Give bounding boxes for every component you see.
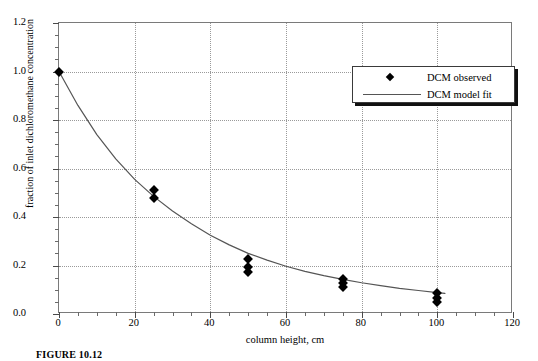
- y-tick-major: [53, 217, 59, 218]
- legend-entry-observed: DCM observed: [353, 69, 514, 86]
- gridline-vertical: [135, 23, 136, 312]
- y-tick-minor: [55, 96, 59, 97]
- x-tick-label: 60: [265, 318, 305, 328]
- y-tick-label: 0.8: [0, 114, 26, 124]
- x-tick-label: 80: [341, 318, 381, 328]
- x-tick-label: 120: [492, 318, 532, 328]
- y-tick-label: 0.6: [0, 163, 26, 173]
- figure-container: DCM observed DCM model fit 0.00.20.40.60…: [0, 0, 538, 361]
- y-tick-minor: [55, 205, 59, 206]
- y-tick-minor: [55, 84, 59, 85]
- x-tick-minor: [191, 312, 192, 316]
- y-tick-major: [53, 266, 59, 267]
- y-tick-minor: [55, 47, 59, 48]
- y-tick-minor: [55, 278, 59, 279]
- gridline-horizontal: [59, 169, 511, 170]
- y-tick-minor: [55, 35, 59, 36]
- x-tick-minor: [116, 312, 117, 316]
- data-point-marker: [54, 67, 64, 77]
- y-tick-major: [53, 120, 59, 121]
- y-tick-minor: [55, 144, 59, 145]
- y-axis-title: fraction of inlet dichloromethane concen…: [24, 0, 35, 239]
- y-tick-minor: [55, 132, 59, 133]
- x-tick-minor: [324, 312, 325, 316]
- x-tick-minor: [381, 312, 382, 316]
- plot-area: DCM observed DCM model fit: [58, 22, 512, 313]
- gridline-vertical: [286, 23, 287, 312]
- y-tick-minor: [55, 108, 59, 109]
- diamond-marker-icon: [361, 69, 423, 86]
- y-tick-label: 0.4: [0, 211, 26, 221]
- x-axis-title: column height, cm: [58, 334, 512, 345]
- x-tick-minor: [154, 312, 155, 316]
- x-tick-minor: [343, 312, 344, 316]
- x-tick-minor: [78, 312, 79, 316]
- gridline-horizontal: [59, 217, 511, 218]
- y-tick-major: [53, 169, 59, 170]
- y-tick-minor: [55, 290, 59, 291]
- y-tick-minor: [55, 253, 59, 254]
- figure-caption: FIGURE 10.12: [36, 349, 102, 360]
- y-tick-label: 1.2: [0, 17, 26, 27]
- x-tick-minor: [248, 312, 249, 316]
- y-tick-minor: [55, 229, 59, 230]
- legend-entry-model-fit: DCM model fit: [353, 86, 514, 103]
- x-tick-minor: [494, 312, 495, 316]
- x-tick-label: 20: [114, 318, 154, 328]
- y-tick-minor: [55, 181, 59, 182]
- x-tick-minor: [229, 312, 230, 316]
- y-tick-minor: [55, 193, 59, 194]
- legend-label-model-fit: DCM model fit: [427, 88, 492, 101]
- data-point-marker: [149, 193, 159, 203]
- y-tick-minor: [55, 302, 59, 303]
- x-tick-minor: [267, 312, 268, 316]
- x-tick-minor: [305, 312, 306, 316]
- x-tick-minor: [456, 312, 457, 316]
- gridline-vertical: [210, 23, 211, 312]
- x-tick-minor: [400, 312, 401, 316]
- line-sample-icon: [361, 86, 423, 103]
- x-tick-minor: [418, 312, 419, 316]
- x-tick-minor: [475, 312, 476, 316]
- y-tick-minor: [55, 59, 59, 60]
- x-tick-label: 40: [189, 318, 229, 328]
- x-tick-minor: [97, 312, 98, 316]
- y-tick-label: 0.2: [0, 260, 26, 270]
- y-tick-label: 1.0: [0, 66, 26, 76]
- y-tick-minor: [55, 241, 59, 242]
- y-tick-major: [53, 23, 59, 24]
- chart-legend: DCM observed DCM model fit: [352, 66, 515, 103]
- y-tick-minor: [55, 156, 59, 157]
- gridline-horizontal: [59, 120, 511, 121]
- legend-label-observed: DCM observed: [427, 71, 491, 84]
- gridline-horizontal: [59, 266, 511, 267]
- y-tick-label: 0.0: [0, 308, 26, 318]
- x-tick-minor: [173, 312, 174, 316]
- x-tick-label: 100: [416, 318, 456, 328]
- x-tick-label: 0: [38, 318, 78, 328]
